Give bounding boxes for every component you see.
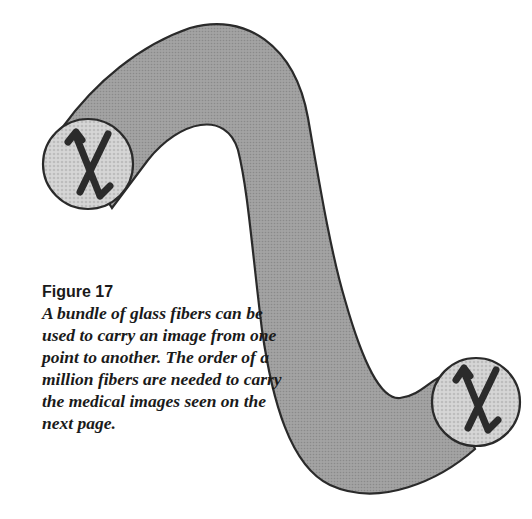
- figure-label: Figure 17: [42, 283, 282, 301]
- right-end-face: [432, 358, 520, 446]
- fiber-bundle-illustration: [0, 0, 532, 519]
- left-end-face: [43, 119, 133, 209]
- figure-caption-text: A bundle of glass fibers can be used to …: [42, 302, 282, 434]
- figure-caption: Figure 17 A bundle of glass fibers can b…: [42, 283, 282, 434]
